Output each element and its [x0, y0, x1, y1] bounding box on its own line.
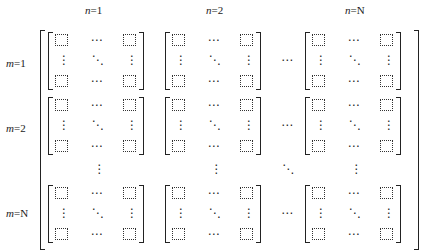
element-cell	[380, 140, 393, 152]
element-cell	[240, 187, 253, 199]
column-header-1: n=1	[85, 4, 102, 16]
vdots-symbol: ⋮	[243, 207, 255, 219]
element-cell	[55, 34, 68, 46]
vdots-symbol: ⋮	[126, 119, 138, 131]
element-cell	[312, 228, 325, 240]
hdots-symbol: ⋯	[348, 75, 360, 87]
hdots-symbol: ⋯	[208, 34, 220, 46]
block-vdots-symbol: ⋮	[211, 163, 223, 175]
vdots-symbol: ⋮	[243, 119, 255, 131]
hdots-symbol: ⋯	[91, 99, 103, 111]
hdots-symbol: ⋯	[91, 34, 103, 46]
block-hdots-symbol: ⋯	[281, 207, 293, 219]
vdots-symbol: ⋮	[383, 54, 395, 66]
element-cell	[380, 75, 393, 87]
vdots-symbol: ⋮	[126, 207, 138, 219]
element-cell	[123, 99, 136, 111]
hdots-symbol: ⋯	[348, 187, 360, 199]
block-right-bracket	[256, 185, 261, 243]
hdots-symbol: ⋯	[208, 75, 220, 87]
element-cell	[55, 75, 68, 87]
element-cell	[380, 187, 393, 199]
block-hdots-symbol: ⋯	[281, 119, 293, 131]
element-cell	[240, 228, 253, 240]
hdots-symbol: ⋯	[208, 187, 220, 199]
outer-left-bracket	[40, 30, 45, 250]
vdots-symbol: ⋮	[315, 119, 327, 131]
vdots-symbol: ⋮	[315, 207, 327, 219]
block-right-bracket	[396, 185, 401, 243]
element-cell	[240, 34, 253, 46]
block-hdots-symbol: ⋯	[281, 54, 293, 66]
block-left-bracket	[165, 97, 170, 155]
block-left-bracket	[305, 97, 310, 155]
hdots-symbol: ⋯	[91, 75, 103, 87]
ddots-symbol: ⋱	[209, 207, 221, 219]
block-right-bracket	[396, 32, 401, 90]
element-cell	[172, 34, 185, 46]
ddots-symbol: ⋱	[209, 119, 221, 131]
vdots-symbol: ⋮	[383, 119, 395, 131]
column-header-2: n=2	[206, 4, 223, 16]
block-right-bracket	[256, 32, 261, 90]
block-left-bracket	[305, 32, 310, 90]
hdots-symbol: ⋯	[348, 140, 360, 152]
outer-right-bracket	[414, 30, 419, 250]
hdots-symbol: ⋯	[208, 140, 220, 152]
element-cell	[312, 34, 325, 46]
vdots-symbol: ⋮	[175, 54, 187, 66]
block-right-bracket	[139, 32, 144, 90]
vdots-symbol: ⋮	[58, 207, 70, 219]
hdots-symbol: ⋯	[208, 99, 220, 111]
element-cell	[312, 75, 325, 87]
column-header-3: n=N	[345, 4, 365, 16]
ddots-symbol: ⋱	[92, 54, 104, 66]
element-cell	[380, 99, 393, 111]
vdots-symbol: ⋮	[175, 207, 187, 219]
vdots-symbol: ⋮	[383, 207, 395, 219]
block-left-bracket	[48, 32, 53, 90]
ddots-symbol: ⋱	[209, 54, 221, 66]
row-header-3: m=N	[6, 207, 28, 219]
element-cell	[55, 140, 68, 152]
ddots-symbol: ⋱	[349, 207, 361, 219]
vdots-symbol: ⋮	[58, 54, 70, 66]
vdots-symbol: ⋮	[315, 54, 327, 66]
row-header-1: m=1	[6, 57, 26, 69]
block-left-bracket	[48, 185, 53, 243]
row-header-2: m=2	[6, 122, 26, 134]
hdots-symbol: ⋯	[91, 228, 103, 240]
block-ddots-symbol: ⋱	[282, 163, 294, 175]
element-cell	[312, 187, 325, 199]
ddots-symbol: ⋱	[349, 119, 361, 131]
element-cell	[240, 75, 253, 87]
block-vdots-symbol: ⋮	[94, 163, 106, 175]
element-cell	[123, 228, 136, 240]
block-left-bracket	[165, 32, 170, 90]
block-left-bracket	[165, 185, 170, 243]
vdots-symbol: ⋮	[58, 119, 70, 131]
block-right-bracket	[256, 97, 261, 155]
element-cell	[240, 140, 253, 152]
element-cell	[172, 75, 185, 87]
hdots-symbol: ⋯	[91, 140, 103, 152]
element-cell	[55, 99, 68, 111]
ddots-symbol: ⋱	[349, 54, 361, 66]
element-cell	[172, 187, 185, 199]
block-left-bracket	[48, 97, 53, 155]
element-cell	[172, 228, 185, 240]
element-cell	[380, 228, 393, 240]
block-right-bracket	[139, 97, 144, 155]
element-cell	[55, 228, 68, 240]
hdots-symbol: ⋯	[208, 228, 220, 240]
element-cell	[172, 99, 185, 111]
element-cell	[123, 187, 136, 199]
hdots-symbol: ⋯	[348, 34, 360, 46]
hdots-symbol: ⋯	[348, 99, 360, 111]
element-cell	[312, 99, 325, 111]
element-cell	[312, 140, 325, 152]
block-vdots-symbol: ⋮	[351, 163, 363, 175]
element-cell	[123, 140, 136, 152]
element-cell	[55, 187, 68, 199]
ddots-symbol: ⋱	[92, 119, 104, 131]
